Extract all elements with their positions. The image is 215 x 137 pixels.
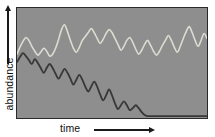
y-axis: abundance [0, 0, 16, 119]
series-line-stable-population [17, 25, 207, 57]
series-canvas [17, 8, 207, 118]
right-arrow-icon [94, 129, 150, 131]
x-axis-label: time [60, 122, 80, 134]
figure-root: abundance time [0, 0, 215, 137]
plot-area [16, 7, 208, 119]
y-axis-label: abundance [3, 48, 15, 120]
x-axis: time [16, 119, 208, 137]
series-line-declining-population [17, 53, 207, 116]
